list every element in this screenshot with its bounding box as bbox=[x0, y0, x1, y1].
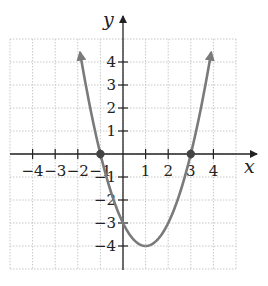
y-tick-label: 3 bbox=[106, 76, 116, 94]
x-tick-label: −3 bbox=[44, 162, 66, 180]
x-intercept-point bbox=[187, 150, 195, 158]
y-tick-label: 4 bbox=[106, 53, 116, 71]
parabola-graph: −4−3−2−11234−4−3−2−11234 x y bbox=[0, 0, 268, 286]
x-tick-label: 4 bbox=[209, 162, 219, 180]
x-tick-label: 1 bbox=[141, 162, 151, 180]
x-tick-label: −2 bbox=[67, 162, 89, 180]
y-tick-label: −4 bbox=[94, 237, 116, 255]
y-tick-label: 2 bbox=[106, 99, 116, 117]
axes bbox=[10, 16, 257, 270]
y-tick-label: 1 bbox=[106, 122, 116, 140]
x-tick-label: −4 bbox=[22, 162, 44, 180]
x-axis-label: x bbox=[244, 155, 255, 177]
y-axis-label: y bbox=[102, 8, 114, 30]
parabola-right-branch bbox=[146, 53, 212, 246]
y-tick-label: −3 bbox=[94, 214, 116, 232]
x-intercept-point bbox=[96, 150, 104, 158]
x-tick-label: 2 bbox=[163, 162, 173, 180]
